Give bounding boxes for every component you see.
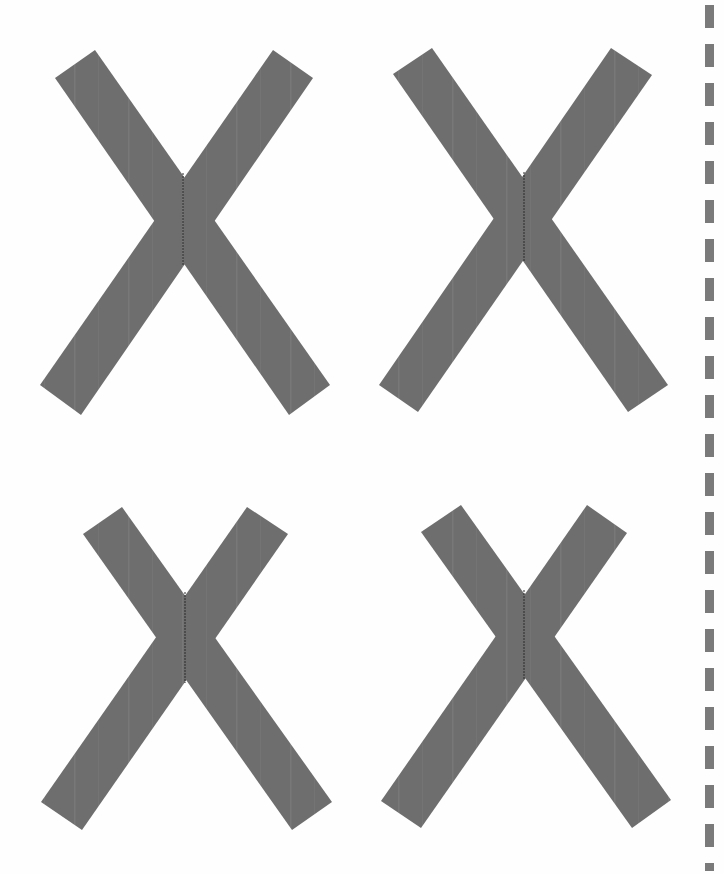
page-canvas	[0, 0, 724, 874]
x-mark-top-right	[379, 48, 668, 412]
dashed-cut-line	[705, 5, 714, 871]
x-arm-ascending	[381, 505, 627, 828]
x-arm-ascending	[41, 507, 288, 830]
x-mark-bottom-right	[381, 505, 671, 828]
x-mark-bottom-left	[41, 507, 332, 830]
x-marks-layer	[0, 0, 724, 874]
x-arm-descending	[421, 505, 671, 828]
x-arm-descending	[83, 507, 332, 830]
x-mark-top-left	[40, 50, 330, 415]
